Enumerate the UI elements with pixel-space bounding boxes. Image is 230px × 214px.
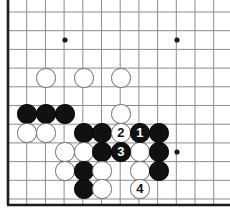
stone-black xyxy=(149,142,168,161)
stone-black xyxy=(74,179,93,198)
stone-white xyxy=(74,68,93,87)
stone-black xyxy=(149,123,168,142)
go-board-diagram: 2134 xyxy=(0,0,230,214)
stone-white xyxy=(111,68,130,87)
stone-white xyxy=(111,104,130,123)
stone-white xyxy=(55,142,74,161)
stone-white-move-4 xyxy=(130,179,149,198)
star-point xyxy=(174,149,179,154)
stone-white xyxy=(92,161,111,180)
stone-white xyxy=(17,123,36,142)
stone-black xyxy=(92,123,111,142)
stone-black xyxy=(55,104,74,123)
stone-white xyxy=(55,161,74,180)
stone-white-move-2 xyxy=(111,123,130,142)
star-point xyxy=(174,37,179,42)
stone-black xyxy=(74,161,93,180)
stone-black xyxy=(74,123,93,142)
stone-black-move-1 xyxy=(130,123,149,142)
stone-white xyxy=(36,68,55,87)
stone-black xyxy=(36,104,55,123)
stone-white xyxy=(130,161,149,180)
stone-black xyxy=(92,142,111,161)
stone-white xyxy=(36,123,55,142)
stone-white xyxy=(74,142,93,161)
stone-black-move-3 xyxy=(111,142,130,161)
grid-lines xyxy=(8,0,230,205)
stone-white xyxy=(92,179,111,198)
stone-white xyxy=(130,142,149,161)
stone-black xyxy=(17,104,36,123)
star-point xyxy=(62,37,67,42)
stone-black xyxy=(149,161,168,180)
